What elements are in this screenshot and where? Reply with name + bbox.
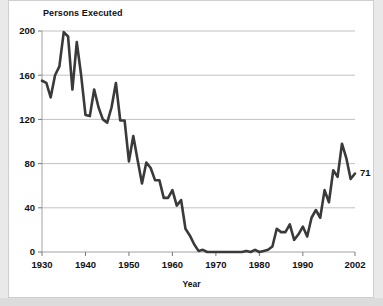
y-tick-0: 0 [30, 246, 35, 257]
x-tick-1990: 1990 [292, 259, 313, 270]
x-tick-1980: 1980 [249, 259, 270, 270]
gridlines [42, 31, 355, 208]
x-axis-tick-labels: 19301940195019601970198019902002 [31, 259, 365, 270]
y-axis-tick-marks [38, 31, 42, 252]
chart-figure: Persons Executed 04080120160200 19301940… [0, 0, 383, 306]
y-tick-160: 160 [19, 70, 35, 81]
x-tick-1960: 1960 [162, 259, 183, 270]
y-tick-120: 120 [19, 114, 35, 125]
y-axis-tick-labels: 04080120160200 [19, 25, 35, 257]
x-axis-tick-marks [42, 252, 355, 256]
line-chart-plot: 04080120160200 1930194019501960197019801… [0, 0, 383, 306]
end-value-annotation: 71 [360, 167, 371, 178]
y-tick-80: 80 [24, 158, 35, 169]
x-tick-1970: 1970 [205, 259, 226, 270]
x-tick-1930: 1930 [31, 259, 52, 270]
y-tick-200: 200 [19, 25, 35, 36]
executions-line-series [42, 32, 355, 252]
y-tick-40: 40 [24, 202, 35, 213]
x-tick-2002: 2002 [344, 259, 365, 270]
x-tick-1950: 1950 [118, 259, 139, 270]
x-axis-title: Year [0, 279, 383, 289]
x-tick-1940: 1940 [75, 259, 96, 270]
